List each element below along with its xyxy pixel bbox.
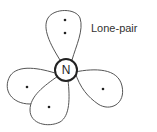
electron-dot xyxy=(64,32,67,35)
electron-dot xyxy=(102,88,105,91)
electron-dot xyxy=(26,86,29,89)
electron-dot xyxy=(64,19,67,22)
orbital-diagram: N Lone-pair xyxy=(0,0,157,132)
electron-dot xyxy=(48,106,51,109)
lone-pair-label: Lone-pair xyxy=(91,22,137,34)
lobe-right xyxy=(75,70,123,107)
lobe-top xyxy=(46,11,81,61)
nitrogen-symbol: N xyxy=(59,63,73,77)
orbital-drawing xyxy=(0,0,157,132)
